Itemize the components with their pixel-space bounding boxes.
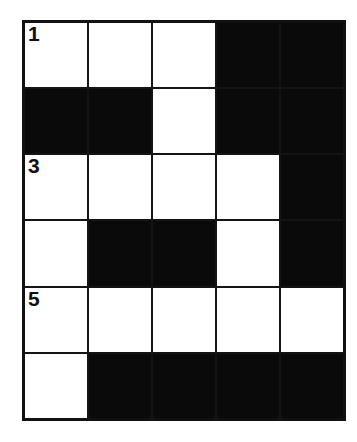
crossword-puzzle: 135 xyxy=(0,0,357,442)
crossword-cell-open[interactable] xyxy=(152,154,216,220)
crossword-cell-open[interactable] xyxy=(216,287,280,353)
crossword-cell-open[interactable] xyxy=(216,220,280,286)
cell-number-label: 5 xyxy=(28,288,39,310)
crossword-cell-open[interactable] xyxy=(88,22,152,88)
cell-number-label: 1 xyxy=(28,23,39,45)
crossword-cell-blocked xyxy=(152,220,216,286)
crossword-cell-open[interactable] xyxy=(280,287,344,353)
crossword-cell-open[interactable]: 5 xyxy=(24,287,88,353)
crossword-cell-blocked xyxy=(24,88,88,154)
crossword-cell-blocked xyxy=(280,22,344,88)
crossword-row: 1 xyxy=(24,22,345,88)
crossword-row: 3 xyxy=(24,154,345,220)
crossword-row xyxy=(24,220,345,286)
crossword-cell-open[interactable]: 3 xyxy=(24,154,88,220)
crossword-cell-open[interactable] xyxy=(152,22,216,88)
crossword-cell-open[interactable] xyxy=(88,287,152,353)
cell-number-label: 3 xyxy=(28,155,39,177)
crossword-cell-blocked xyxy=(216,88,280,154)
crossword-cell-open[interactable] xyxy=(24,220,88,286)
crossword-cell-open[interactable] xyxy=(152,88,216,154)
crossword-cell-open[interactable] xyxy=(152,287,216,353)
crossword-grid[interactable]: 135 xyxy=(22,20,346,421)
crossword-cell-blocked xyxy=(216,22,280,88)
crossword-cell-blocked xyxy=(280,220,344,286)
crossword-cell-open[interactable] xyxy=(216,154,280,220)
crossword-cell-blocked xyxy=(216,353,280,419)
crossword-row xyxy=(24,88,345,154)
crossword-cell-blocked xyxy=(280,154,344,220)
crossword-row xyxy=(24,353,345,419)
crossword-cell-blocked xyxy=(280,353,344,419)
crossword-cell-open[interactable]: 1 xyxy=(24,22,88,88)
crossword-cell-open[interactable] xyxy=(24,353,88,419)
crossword-grid-container: 135 xyxy=(22,20,343,418)
crossword-cell-blocked xyxy=(88,353,152,419)
crossword-cell-blocked xyxy=(88,88,152,154)
crossword-row: 5 xyxy=(24,287,345,353)
crossword-cell-blocked xyxy=(152,353,216,419)
crossword-cell-blocked xyxy=(280,88,344,154)
crossword-cell-open[interactable] xyxy=(88,154,152,220)
crossword-grid-body: 135 xyxy=(24,22,345,420)
crossword-cell-blocked xyxy=(88,220,152,286)
